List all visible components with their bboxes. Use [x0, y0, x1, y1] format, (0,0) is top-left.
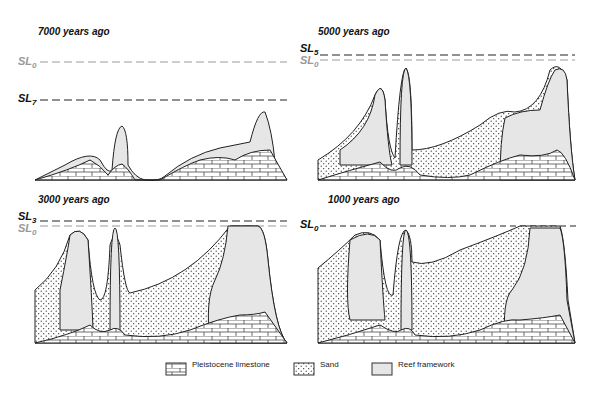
sea-level-label: SL0	[300, 54, 319, 69]
panel-title-7000: 7000 years ago	[38, 26, 110, 37]
legend-limestone: Pleistocene limestone	[192, 360, 270, 369]
panel-title-1000: 1000 years ago	[328, 194, 400, 205]
legend-sand: Sand	[320, 360, 339, 369]
panel-title-5000: 5000 years ago	[318, 26, 390, 37]
legend-reef-swatch	[372, 363, 392, 375]
legend-reef: Reef framework	[398, 360, 454, 369]
panel-5000	[318, 55, 575, 180]
sea-level-label: SL7	[18, 92, 37, 107]
sea-level-label: SL0	[300, 218, 319, 233]
legend-sand-swatch	[294, 363, 314, 375]
panel-1000	[318, 226, 580, 343]
legend-limestone-swatch	[166, 363, 186, 375]
panel-3000	[35, 221, 287, 343]
panel-7000	[35, 62, 287, 181]
sea-level-label: SL0	[18, 222, 37, 237]
panel-title-3000: 3000 years ago	[38, 194, 110, 205]
sea-level-label: SL0	[18, 55, 37, 70]
